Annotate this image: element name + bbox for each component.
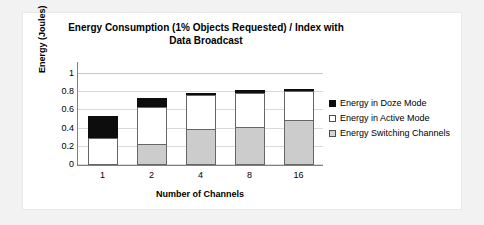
bar-stack[interactable] bbox=[284, 89, 314, 165]
bar-segment[interactable] bbox=[186, 129, 216, 165]
y-tick-label: 0.4 bbox=[61, 123, 74, 133]
legend-swatch-icon bbox=[329, 100, 336, 107]
legend-item[interactable]: Energy in Doze Mode bbox=[329, 98, 450, 108]
legend-item[interactable]: Energy in Active Mode bbox=[329, 113, 450, 123]
legend-item-label: Energy in Doze Mode bbox=[340, 98, 427, 108]
bar-segment[interactable] bbox=[284, 120, 314, 165]
bar-group[interactable]: 1 bbox=[88, 62, 118, 165]
bar-segment[interactable] bbox=[186, 95, 216, 129]
plot-area: 00.20.40.60.81 124816 bbox=[77, 62, 323, 166]
bar-segment[interactable] bbox=[137, 107, 167, 144]
legend-item[interactable]: Energy Switching Channels bbox=[329, 128, 450, 138]
y-axis-title: Energy (Joules) bbox=[37, 5, 47, 73]
y-tick-label: 0.8 bbox=[61, 86, 74, 96]
legend-swatch-icon bbox=[329, 130, 336, 137]
bar-stack[interactable] bbox=[88, 116, 118, 166]
bar-stack[interactable] bbox=[186, 93, 216, 165]
chart-title-line-2: Data Broadcast bbox=[41, 34, 371, 47]
x-tick-label: 16 bbox=[293, 170, 303, 180]
bar-group[interactable]: 2 bbox=[137, 62, 167, 165]
chart-title: Energy Consumption (1% Objects Requested… bbox=[41, 21, 371, 47]
bar-segment[interactable] bbox=[137, 98, 167, 107]
bar-segment[interactable] bbox=[88, 138, 118, 165]
x-tick-label: 4 bbox=[198, 170, 203, 180]
bar-stack[interactable] bbox=[235, 90, 265, 165]
bar-segment[interactable] bbox=[235, 93, 265, 127]
bar-segment[interactable] bbox=[284, 91, 314, 120]
bar-group[interactable]: 16 bbox=[284, 62, 314, 165]
bar-group[interactable]: 8 bbox=[235, 62, 265, 165]
bar-stack[interactable] bbox=[137, 98, 167, 165]
x-tick-label: 8 bbox=[247, 170, 252, 180]
x-axis-title: Number of Channels bbox=[77, 189, 323, 199]
y-tick-label: 0 bbox=[69, 159, 74, 169]
x-tick-label: 1 bbox=[100, 170, 105, 180]
bar-segment[interactable] bbox=[88, 116, 118, 139]
bar-segment[interactable] bbox=[137, 144, 167, 165]
x-tick-label: 2 bbox=[149, 170, 154, 180]
chart-legend: Energy in Doze ModeEnergy in Active Mode… bbox=[329, 98, 450, 143]
bar-group[interactable]: 4 bbox=[186, 62, 216, 165]
y-tick-label: 0.2 bbox=[61, 141, 74, 151]
legend-swatch-icon bbox=[329, 115, 336, 122]
legend-item-label: Energy in Active Mode bbox=[340, 113, 430, 123]
y-tick-label: 0.6 bbox=[61, 104, 74, 114]
legend-item-label: Energy Switching Channels bbox=[340, 128, 450, 138]
y-tick-label: 1 bbox=[69, 68, 74, 78]
chart-figure: Energy Consumption (1% Objects Requested… bbox=[22, 12, 462, 210]
chart-title-line-1: Energy Consumption (1% Objects Requested… bbox=[41, 21, 371, 34]
bar-segment[interactable] bbox=[235, 127, 265, 165]
